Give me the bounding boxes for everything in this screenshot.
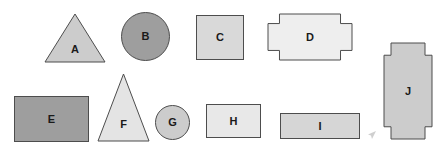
shape-c[interactable]: C (196, 15, 244, 60)
shape-b[interactable]: B (121, 12, 170, 61)
shape-f[interactable]: F (97, 73, 150, 142)
shape-i[interactable]: I (280, 113, 360, 139)
shape-label-h: H (230, 116, 238, 127)
shape-j[interactable]: J (383, 42, 433, 140)
shape-label-c: C (216, 32, 224, 43)
shape-e[interactable]: E (14, 96, 89, 142)
shape-diagram-canvas: ABCDEFGHIJ (0, 0, 444, 153)
shape-label-g: G (168, 117, 177, 128)
shape-label-e: E (48, 114, 55, 125)
shape-g[interactable]: G (155, 105, 190, 140)
shape-h[interactable]: H (206, 104, 261, 138)
mouse-pointer-icon (368, 126, 377, 135)
shape-d[interactable]: D (267, 13, 353, 61)
shape-a[interactable]: A (44, 13, 106, 63)
shape-label-i: I (318, 121, 321, 132)
shape-label-b: B (142, 31, 150, 42)
